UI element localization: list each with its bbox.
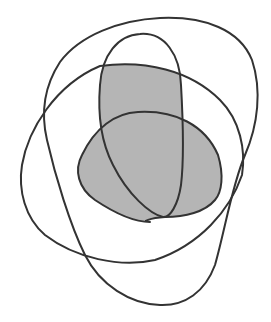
venn-diagram (0, 0, 271, 322)
